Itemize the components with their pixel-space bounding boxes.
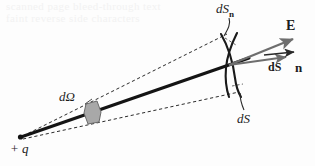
label-dS-normal-main: dS [216,1,229,16]
label-point-charge: + q [10,142,29,155]
solid-angle-patch [84,101,101,124]
central-ray-line [21,58,249,137]
solid-angle-patch-shape [84,101,101,124]
leader-line-dSn [224,18,230,36]
label-dS-normal: dSn [216,2,234,19]
cone-upper-edge-line [23,34,227,136]
label-area-element: dS [237,112,250,125]
leader-lines [85,18,244,110]
point-charge-dot [18,134,23,139]
label-dS-vector: dS [268,61,281,73]
label-solid-angle: dΩ [59,90,75,103]
diagram-canvas [0,0,315,166]
label-unit-normal: n [295,61,302,74]
unit-normal-vector [264,52,294,55]
physics-figure-solid-angle: scanned page bleed-through text faint re… [0,0,315,166]
leader-line-dS [240,93,244,110]
n-vector-arrow [264,52,294,55]
central-ray [21,58,249,137]
point-charge [18,134,23,139]
label-E-vector: E [286,19,295,33]
label-dS-normal-subscript: n [229,9,234,19]
